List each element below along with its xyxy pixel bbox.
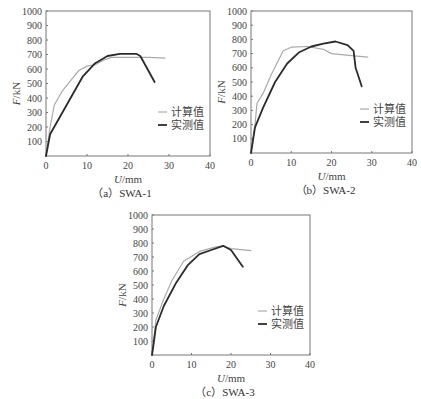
y-tick-label: 500 [232, 77, 247, 88]
y-tick-label: 500 [27, 78, 42, 89]
legend-meas-label: 实测值 [171, 118, 204, 131]
legend: 计算值实测值 [360, 102, 406, 128]
legend: 计算值实测值 [258, 304, 304, 330]
legend: 计算值实测值 [158, 105, 204, 131]
y-tick-label: 800 [232, 34, 247, 45]
y-tick-label: 400 [133, 294, 148, 305]
y-tick-label: 1000 [227, 6, 247, 17]
x-axis-label: U/mm [217, 372, 246, 384]
legend-meas-label: 实测值 [373, 115, 406, 128]
y-tick-label: 900 [27, 20, 42, 31]
x-tick-label: 40 [205, 160, 215, 171]
y-tick-label: 700 [27, 49, 42, 60]
x-axis-label: U/mm [114, 173, 143, 185]
y-tick-label: 500 [133, 280, 148, 291]
y-tick-label: 400 [232, 91, 247, 102]
y-tick-label: 1000 [128, 210, 148, 221]
legend-calc-label: 计算值 [171, 105, 204, 118]
x-tick-label: 0 [44, 160, 49, 171]
x-tick-label: 0 [150, 359, 155, 370]
x-tick-label: 10 [286, 157, 296, 168]
y-tick-label: 600 [27, 64, 42, 75]
plot-frame [46, 11, 210, 156]
x-tick-label: 0 [249, 157, 254, 168]
y-tick-label: 700 [133, 252, 148, 263]
x-tick-label: 20 [123, 160, 133, 171]
y-tick-label: 200 [232, 119, 247, 130]
x-tick-label: 40 [407, 157, 417, 168]
legend-calc-label: 计算值 [373, 102, 406, 115]
y-tick-label: 900 [133, 224, 148, 235]
y-tick-label: 600 [232, 62, 247, 73]
y-axis-label: F/kN [116, 283, 128, 307]
series-measured-line [152, 246, 243, 355]
series-calculated-line [46, 57, 165, 156]
chart-caption: （c）SWA-3 [195, 386, 255, 398]
x-tick-label: 20 [327, 157, 337, 168]
x-axis-label: U/mm [317, 170, 346, 182]
x-tick-label: 30 [266, 359, 276, 370]
series-measured-line [46, 54, 155, 156]
y-tick-label: 300 [232, 105, 247, 116]
y-tick-label: 700 [232, 48, 247, 59]
chart-swa-1: 1002003004005006007008009001000010203040… [10, 6, 215, 200]
y-tick-label: 100 [133, 336, 148, 347]
y-tick-label: 400 [27, 93, 42, 104]
x-tick-label: 10 [82, 160, 92, 171]
legend-calc-label: 计算值 [271, 304, 304, 317]
chart-caption: （a）SWA-1 [92, 187, 151, 199]
y-tick-label: 200 [133, 322, 148, 333]
chart-swa-2: 1002003004005006007008009001000010203040… [215, 6, 417, 197]
y-tick-label: 300 [133, 308, 148, 319]
x-tick-label: 30 [367, 157, 377, 168]
y-tick-label: 800 [27, 35, 42, 46]
y-tick-label: 300 [27, 107, 42, 118]
y-tick-label: 100 [27, 136, 42, 147]
y-axis-label: F/kN [215, 80, 227, 104]
series-measured-line [251, 42, 362, 154]
x-tick-label: 20 [226, 359, 236, 370]
x-tick-label: 10 [187, 359, 197, 370]
chart-swa-3: 1002003004005006007008009001000010203040… [116, 210, 315, 399]
y-tick-label: 900 [232, 20, 247, 31]
y-tick-label: 1000 [22, 6, 42, 17]
x-tick-label: 30 [164, 160, 174, 171]
y-tick-label: 100 [232, 133, 247, 144]
chart-caption: （b）SWA-2 [296, 184, 356, 196]
figure-canvas: 1002003004005006007008009001000010203040… [0, 0, 421, 399]
x-tick-label: 40 [305, 359, 315, 370]
y-tick-label: 600 [133, 266, 148, 277]
y-tick-label: 200 [27, 122, 42, 133]
legend-meas-label: 实测值 [271, 317, 304, 330]
series-calculated-line [251, 47, 368, 154]
y-tick-label: 800 [133, 238, 148, 249]
y-axis-label: F/kN [10, 82, 22, 106]
